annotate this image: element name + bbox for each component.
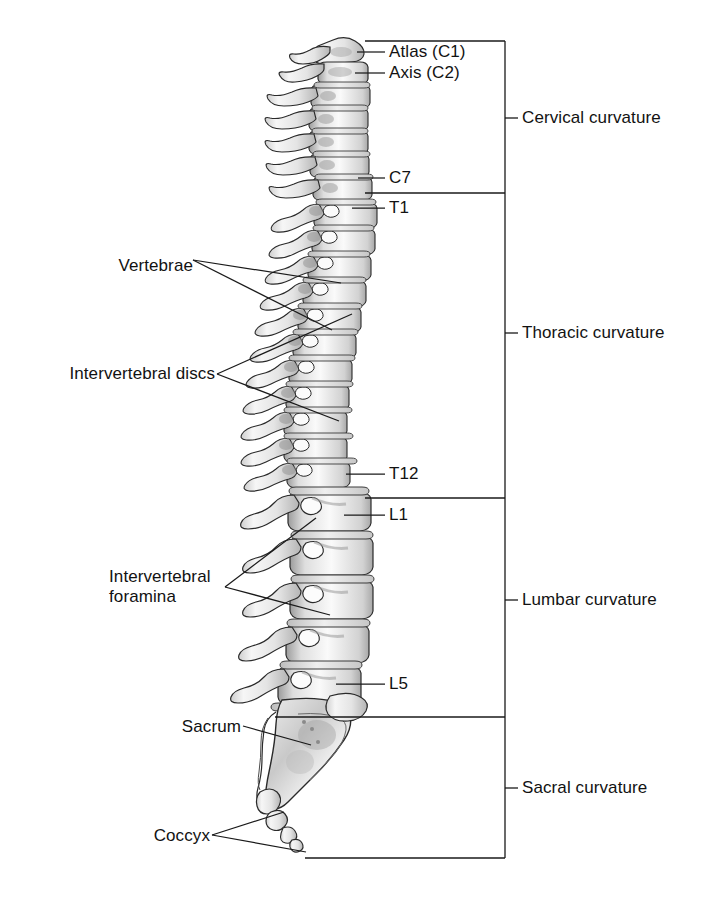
label-t1: T1	[389, 198, 409, 218]
label-sacrum: Sacrum	[0, 717, 241, 737]
lumbar-vertebrae	[231, 487, 374, 711]
thoracic-vertebrae	[241, 199, 377, 491]
coccyx-bone	[256, 789, 303, 852]
label-vertebrae: Vertebrae	[0, 256, 193, 276]
label-l1: L1	[389, 505, 408, 525]
label-intervertebral-discs: Intervertebral discs	[0, 364, 215, 384]
vertebral-column-illustration	[0, 0, 709, 899]
label-thoracic-curvature: Thoracic curvature	[522, 323, 665, 343]
label-intervertebral-foramina: Intervertebral foramina	[109, 567, 211, 607]
spine-drawing	[193, 38, 518, 858]
label-atlas-c1: Atlas (C1)	[389, 42, 466, 62]
label-sacral-curvature: Sacral curvature	[522, 778, 647, 798]
cervical-vertebrae	[265, 38, 373, 200]
label-cervical-curvature: Cervical curvature	[522, 108, 661, 128]
label-t12: T12	[389, 464, 419, 484]
label-l5: L5	[389, 674, 408, 694]
figure-canvas: Atlas (C1) Axis (C2) C7 T1 T12 L1 L5 Ver…	[0, 0, 709, 899]
label-lumbar-curvature: Lumbar curvature	[522, 590, 657, 610]
label-c7: C7	[389, 168, 411, 188]
label-axis-c2: Axis (C2)	[389, 63, 460, 83]
label-coccyx: Coccyx	[0, 826, 210, 846]
